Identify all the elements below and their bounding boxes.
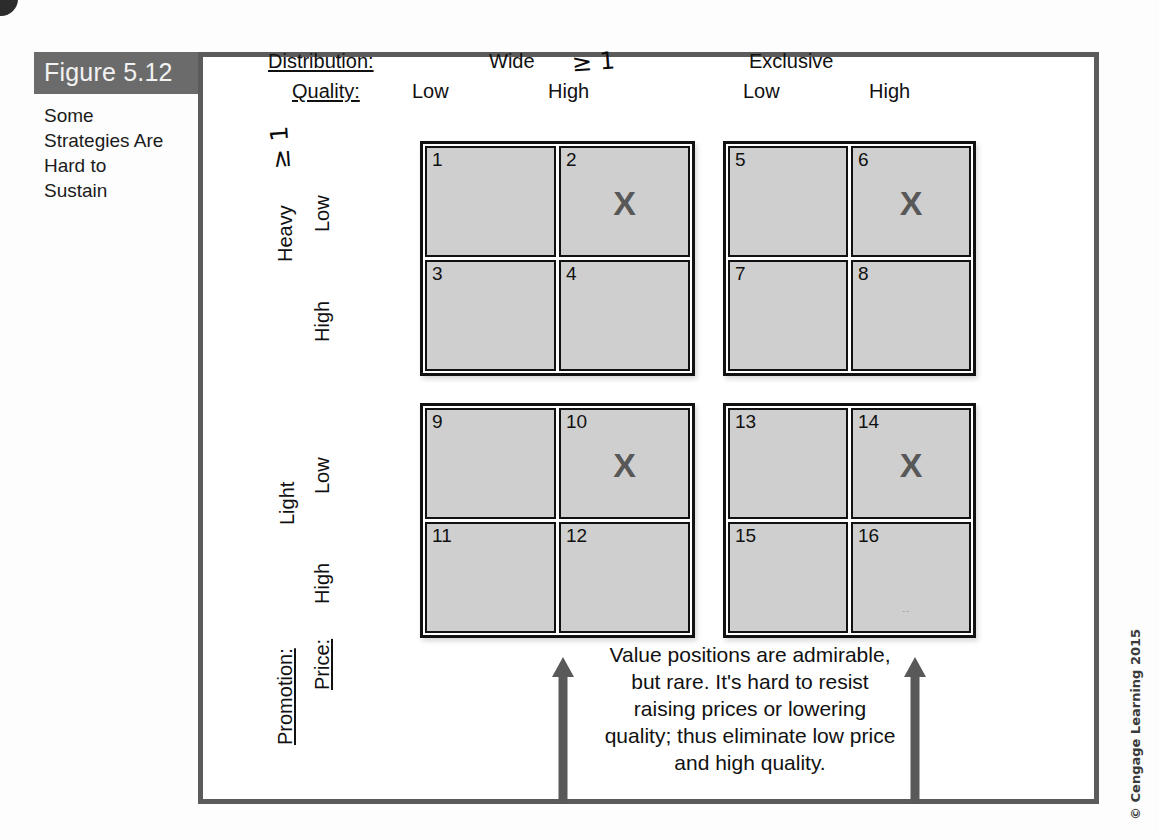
distribution-axis-label: Distribution: xyxy=(268,50,374,73)
arrow-up-right xyxy=(900,657,930,804)
promotion-value-heavy: Heavy xyxy=(274,205,297,262)
cell-number: 11 xyxy=(432,525,452,547)
page-speck: ․․ xyxy=(902,602,910,615)
promotion-value-light: Light xyxy=(276,482,299,525)
cell-number: 15 xyxy=(735,525,756,547)
matrix-cell[interactable]: 4 xyxy=(559,260,690,371)
cell-number: 3 xyxy=(432,263,443,285)
cell-mark: X xyxy=(561,184,688,223)
matrix-cell[interactable]: 15 xyxy=(728,522,848,633)
arrow-shaft xyxy=(559,675,568,804)
cell-number: 14 xyxy=(858,411,879,433)
cell-number: 16 xyxy=(858,525,879,547)
price-axis-label: Price: xyxy=(311,639,334,690)
matrix-cell[interactable]: 8 xyxy=(851,260,971,371)
quality-value-exclusive-low: Low xyxy=(743,80,780,103)
price-value-heavy-high: High xyxy=(311,301,334,342)
matrix-cell[interactable]: 5 xyxy=(728,146,848,257)
quality-value-wide-high: High xyxy=(548,80,589,103)
quadrant-exclusive-heavy: 5 6 X 7 8 xyxy=(723,141,976,376)
cell-number: 2 xyxy=(566,149,577,171)
price-value-light-high: High xyxy=(311,563,334,604)
cell-number: 9 xyxy=(432,411,443,433)
figure-caption: Value positions are admirable, but rare.… xyxy=(600,641,900,776)
cell-number: 1 xyxy=(432,149,443,171)
arrowhead-icon xyxy=(904,657,926,677)
distribution-value-exclusive: Exclusive xyxy=(749,50,833,73)
matrix-cell[interactable]: 3 xyxy=(425,260,556,371)
cell-number: 12 xyxy=(566,525,587,547)
handwritten-heavy-annotation: ≥ 1 xyxy=(265,125,296,170)
cell-mark: X xyxy=(853,446,969,485)
matrix-cell[interactable]: 12 xyxy=(559,522,690,633)
arrowhead-icon xyxy=(552,657,574,677)
matrix-cell[interactable]: 1 xyxy=(425,146,556,257)
matrix-cell[interactable]: 9 xyxy=(425,408,556,519)
figure-title-text: Some Strategies Are Hard to Sustain xyxy=(34,94,172,203)
cell-number: 6 xyxy=(858,149,869,171)
distribution-value-wide: Wide xyxy=(489,50,535,73)
cell-number: 7 xyxy=(735,263,746,285)
copyright-notice: © Cengage Learning 2015 xyxy=(1128,629,1143,820)
matrix-cell[interactable]: 6 X xyxy=(851,146,971,257)
quality-value-exclusive-high: High xyxy=(869,80,910,103)
arrow-shaft xyxy=(911,675,920,804)
page-corner-smudge xyxy=(0,0,18,16)
price-value-light-low: Low xyxy=(311,457,334,494)
handwritten-wide-annotation: ≥ 1 xyxy=(571,47,616,78)
cell-number: 8 xyxy=(858,263,869,285)
quadrant-wide-light: 9 10 X 11 12 xyxy=(420,403,695,638)
matrix-cell[interactable]: 11 xyxy=(425,522,556,633)
quadrant-wide-heavy: 1 2 X 3 4 xyxy=(420,141,695,376)
cell-number: 10 xyxy=(566,411,587,433)
matrix-cell[interactable]: 2 X xyxy=(559,146,690,257)
quadrant-exclusive-light: 13 14 X 15 16 ․․ xyxy=(723,403,976,638)
price-value-heavy-low: Low xyxy=(311,195,334,232)
promotion-axis-label: Promotion: xyxy=(274,648,297,745)
figure-title-block: Figure 5.12 Some Strategies Are Hard to … xyxy=(34,52,206,203)
cell-number: 4 xyxy=(566,263,577,285)
cell-number: 5 xyxy=(735,149,746,171)
quality-axis-label: Quality: xyxy=(292,80,360,103)
matrix-cell[interactable]: 7 xyxy=(728,260,848,371)
matrix-cell[interactable]: 13 xyxy=(728,408,848,519)
figure-page: Figure 5.12 Some Strategies Are Hard to … xyxy=(0,0,1159,839)
quality-value-wide-low: Low xyxy=(412,80,449,103)
cell-mark: X xyxy=(853,184,969,223)
matrix-cell[interactable]: 16 ․․ xyxy=(851,522,971,633)
page-bleedthrough-top xyxy=(300,2,306,24)
cell-mark: X xyxy=(561,446,688,485)
matrix-cell[interactable]: 10 X xyxy=(559,408,690,519)
figure-number-label: Figure 5.12 xyxy=(34,52,206,94)
arrow-up-left xyxy=(548,657,578,804)
matrix-cell[interactable]: 14 X xyxy=(851,408,971,519)
cell-number: 13 xyxy=(735,411,756,433)
